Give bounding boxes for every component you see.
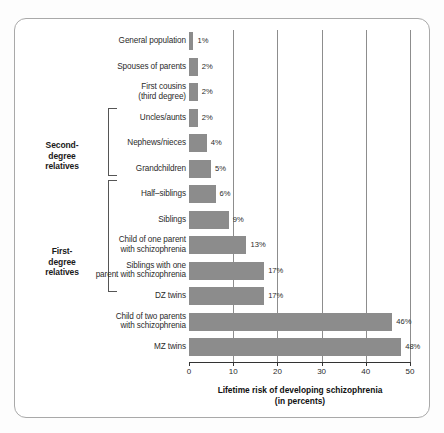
bar-row-label-line1: Spouses of parents	[56, 62, 186, 72]
bar-row-label: First cousins(third degree)	[56, 82, 186, 101]
bar-row: Nephews/nieces4%	[0, 132, 444, 154]
x-tick-10	[233, 362, 234, 366]
bar-value-label: 17%	[268, 291, 283, 300]
bar-row-label: DZ twins	[56, 291, 186, 301]
bar	[189, 287, 264, 305]
bar-row-label-line1: Siblings	[56, 215, 186, 225]
bar-value-label: 2%	[202, 113, 213, 122]
bar-row-label-line1: General population	[56, 36, 186, 46]
bar-row: Siblings with oneparent with schizophren…	[0, 260, 444, 282]
bar-row-label-line1: First cousins	[56, 82, 186, 92]
bar	[189, 58, 198, 76]
bar-row-label: Child of two parentswith schizophrenia	[56, 312, 186, 331]
bar	[189, 313, 392, 331]
bar-row-label: General population	[56, 36, 186, 46]
bar-row: MZ twins48%	[0, 336, 444, 358]
bar-value-label: 4%	[211, 138, 222, 147]
x-tick-label-30: 30	[317, 367, 326, 376]
x-tick-label-10: 10	[229, 367, 238, 376]
bar-row: Child of two parentswith schizophrenia46…	[0, 311, 444, 333]
bar-row-label-line1: MZ twins	[56, 342, 186, 352]
x-tick-40	[366, 362, 367, 366]
bar-row: Siblings9%	[0, 209, 444, 231]
bar	[189, 185, 216, 203]
bar	[189, 32, 193, 50]
x-tick-label-0: 0	[187, 367, 191, 376]
bar-row-label: MZ twins	[56, 342, 186, 352]
bar-row: Half–siblings6%	[0, 183, 444, 205]
bar	[189, 262, 264, 280]
bar-value-label: 17%	[268, 266, 283, 275]
x-tick-label-20: 20	[273, 367, 282, 376]
x-tick-30	[322, 362, 323, 366]
bar-row-label-line2: parent with schizophrenia	[56, 270, 186, 280]
x-tick-0	[189, 362, 190, 366]
bar	[189, 83, 198, 101]
bar	[189, 160, 211, 178]
bar-value-label: 5%	[215, 164, 226, 173]
x-tick-20	[277, 362, 278, 366]
bar-row-label-line1: Half–siblings	[56, 189, 186, 199]
bar	[189, 338, 401, 356]
bar-value-label: 9%	[233, 215, 244, 224]
bar-row-label-line1: Child of two parents	[56, 312, 186, 322]
bar-row-label: Child of one parentwith schizophrenia	[56, 235, 186, 254]
bar-value-label: 48%	[405, 342, 420, 351]
bar-row-label: Uncles/aunts	[56, 113, 186, 123]
bar-row-label: Nephews/nieces	[56, 138, 186, 148]
x-axis-title-line2: (in percents)	[189, 396, 411, 407]
bar-row-label-line1: Uncles/aunts	[56, 113, 186, 123]
bar-row: Uncles/aunts2%	[0, 107, 444, 129]
bar-row: First cousins(third degree)2%	[0, 81, 444, 103]
bar-value-label: 46%	[396, 317, 411, 326]
bar-value-label: 6%	[220, 189, 231, 198]
x-tick-50	[410, 362, 411, 366]
bar-value-label: 1%	[197, 36, 208, 45]
bar-row: Spouses of parents2%	[0, 56, 444, 78]
bar-row-label-line1: Child of one parent	[56, 235, 186, 245]
x-axis-title: Lifetime risk of developing schizophreni…	[189, 385, 411, 406]
x-tick-label-50: 50	[406, 367, 415, 376]
bar-value-label: 2%	[202, 62, 213, 71]
x-axis-title-line1: Lifetime risk of developing schizophreni…	[189, 385, 411, 396]
bar-row-label-line2: with schizophrenia	[56, 321, 186, 331]
bar-row-label: Siblings	[56, 215, 186, 225]
bar-row: DZ twins17%	[0, 285, 444, 307]
bar-row-label: Half–siblings	[56, 189, 186, 199]
bar-row-label: Spouses of parents	[56, 62, 186, 72]
bar-row-label-line2: (third degree)	[56, 92, 186, 102]
bar	[189, 236, 246, 254]
x-tick-label-40: 40	[361, 367, 370, 376]
bar-row-label-line2: with schizophrenia	[56, 245, 186, 255]
bar-row-label-line1: Grandchildren	[56, 164, 186, 174]
bar-row: General population1%	[0, 30, 444, 52]
bar-row-label-line1: DZ twins	[56, 291, 186, 301]
bar-row-label-line1: Nephews/nieces	[56, 138, 186, 148]
bar	[189, 134, 207, 152]
bar-value-label: 13%	[250, 240, 265, 249]
chart-figure: Second- degree relatives First- degree r…	[0, 0, 444, 433]
bar	[189, 211, 229, 229]
bar-row: Child of one parentwith schizophrenia13%	[0, 234, 444, 256]
bar-row-label-line1: Siblings with one	[56, 261, 186, 271]
bar-value-label: 2%	[202, 87, 213, 96]
bar-row-label: Grandchildren	[56, 164, 186, 174]
bar-row-label: Siblings with oneparent with schizophren…	[56, 261, 186, 280]
bar	[189, 109, 198, 127]
x-axis-line	[189, 362, 411, 363]
bar-row: Grandchildren5%	[0, 158, 444, 180]
